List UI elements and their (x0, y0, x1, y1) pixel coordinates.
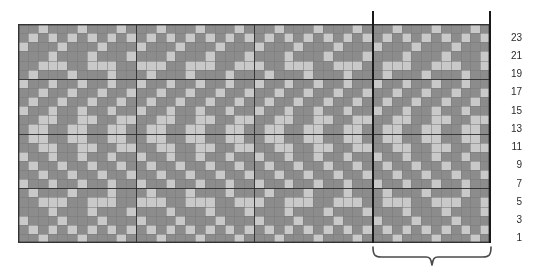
row-number-label: 15 (496, 106, 522, 116)
knitting-chart: 2321191715131197531 (0, 0, 538, 275)
row-number-label: 11 (496, 142, 522, 152)
chart-grid[interactable] (18, 24, 490, 243)
row-number-label: 9 (496, 160, 522, 170)
row-number-label: 1 (496, 233, 522, 243)
repeat-marker-line-left (372, 11, 374, 243)
row-number-label: 17 (496, 87, 522, 97)
row-number-axis: 2321191715131197531 (496, 24, 536, 243)
repeat-brace-icon (370, 246, 494, 270)
chart-grid-canvas[interactable] (18, 24, 490, 243)
row-number-label: 21 (496, 51, 522, 61)
row-number-label: 3 (496, 215, 522, 225)
row-number-label: 13 (496, 124, 522, 134)
row-number-label: 19 (496, 69, 522, 79)
repeat-marker-line-right (489, 11, 491, 243)
row-number-label: 23 (496, 33, 522, 43)
row-number-label: 7 (496, 179, 522, 189)
row-number-label: 5 (496, 197, 522, 207)
